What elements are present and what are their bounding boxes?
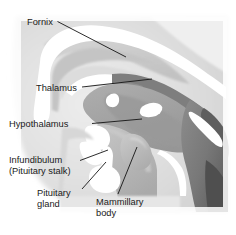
anatomy-illustration: Fornix Thalamus Hypothalamus Infundibulu… bbox=[0, 0, 236, 235]
label-pituitary-gland-line1: Pituitary bbox=[37, 188, 71, 198]
label-mammillary-body-line1: Mammillary bbox=[96, 197, 144, 207]
label-thalamus: Thalamus bbox=[36, 83, 77, 93]
label-mammillary-body-line2: body bbox=[96, 208, 117, 218]
label-pituitary-gland-line2: gland bbox=[37, 199, 60, 209]
brain-section-artwork bbox=[13, 14, 230, 214]
label-infundibulum-line1: Infundibulum bbox=[9, 155, 62, 165]
label-infundibulum-line2: (Pituitary stalk) bbox=[9, 166, 70, 176]
label-hypothalamus: Hypothalamus bbox=[9, 119, 69, 129]
anatomy-figure: Fornix Thalamus Hypothalamus Infundibulu… bbox=[0, 0, 236, 235]
label-fornix: Fornix bbox=[27, 17, 53, 27]
